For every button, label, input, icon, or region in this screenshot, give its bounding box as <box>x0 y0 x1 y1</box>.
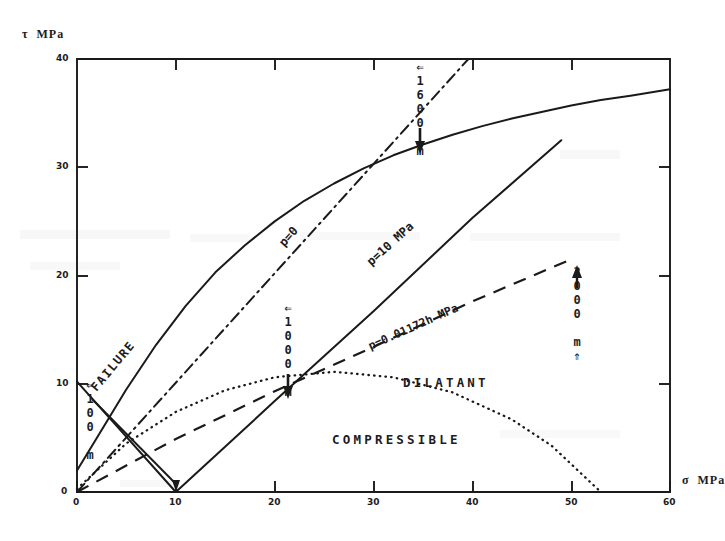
x-tick-10: 10 <box>169 497 182 507</box>
y-axis-title: τ MPa <box>22 27 64 42</box>
y-tick-40: 40 <box>56 53 69 63</box>
x-axis-title: σ MPa <box>682 473 725 488</box>
plot-canvas <box>0 0 725 541</box>
x-tick-30: 30 <box>367 497 380 507</box>
x-tick-50: 50 <box>565 497 578 507</box>
chart-figure: τ MPa σ MPa 0 10 20 30 40 50 60 0 10 20 … <box>0 0 725 541</box>
depth-annotation-2000m: 2000 m⇑ <box>570 265 584 363</box>
series-p=0 <box>77 59 468 492</box>
region-label-dilatant: DILATANT <box>403 375 489 390</box>
x-tick-20: 20 <box>268 497 281 507</box>
y-tick-20: 20 <box>56 270 69 280</box>
x-tick-60: 60 <box>663 497 676 507</box>
depth-annotation-100m: ⇐100 m <box>83 378 97 462</box>
series-p=0.01172h MPa <box>77 259 571 492</box>
x-tick-0: 0 <box>73 497 79 507</box>
depth-annotation-1600m: ⇐1600 m <box>413 60 427 158</box>
scan-noise <box>20 150 620 487</box>
depth-annotation-1000m: ⇐1000 m <box>281 301 295 399</box>
x-tick-40: 40 <box>466 497 479 507</box>
y-tick-30: 30 <box>56 161 69 171</box>
y-tick-0: 0 <box>61 486 67 496</box>
y-tick-10: 10 <box>56 378 69 388</box>
region-label-compressible: COMPRESSIBLE <box>332 432 461 447</box>
